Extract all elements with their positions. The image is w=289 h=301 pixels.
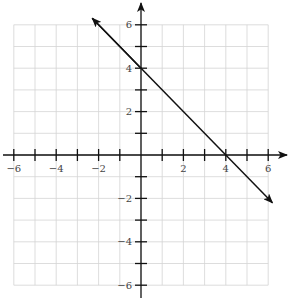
x-tick-label: −2 <box>91 163 106 174</box>
x-tick-label: 4 <box>223 163 229 174</box>
y-tick-label: 6 <box>126 19 132 30</box>
line-series-start-arrow <box>92 18 141 68</box>
x-tick-label: −6 <box>6 163 21 174</box>
axes <box>3 3 287 298</box>
y-tick-label: −4 <box>117 236 132 247</box>
x-tick-label: −4 <box>49 163 64 174</box>
x-tick-label: 6 <box>265 163 271 174</box>
y-tick-label: −6 <box>117 280 132 291</box>
plotted-line <box>92 18 272 202</box>
coordinate-plane: −6−4−2246642−2−4−6 <box>0 0 289 301</box>
x-tick-label: 2 <box>180 163 186 174</box>
y-tick-label: 2 <box>126 106 132 117</box>
y-tick-label: 4 <box>126 63 132 74</box>
y-tick-label: −2 <box>117 193 132 204</box>
